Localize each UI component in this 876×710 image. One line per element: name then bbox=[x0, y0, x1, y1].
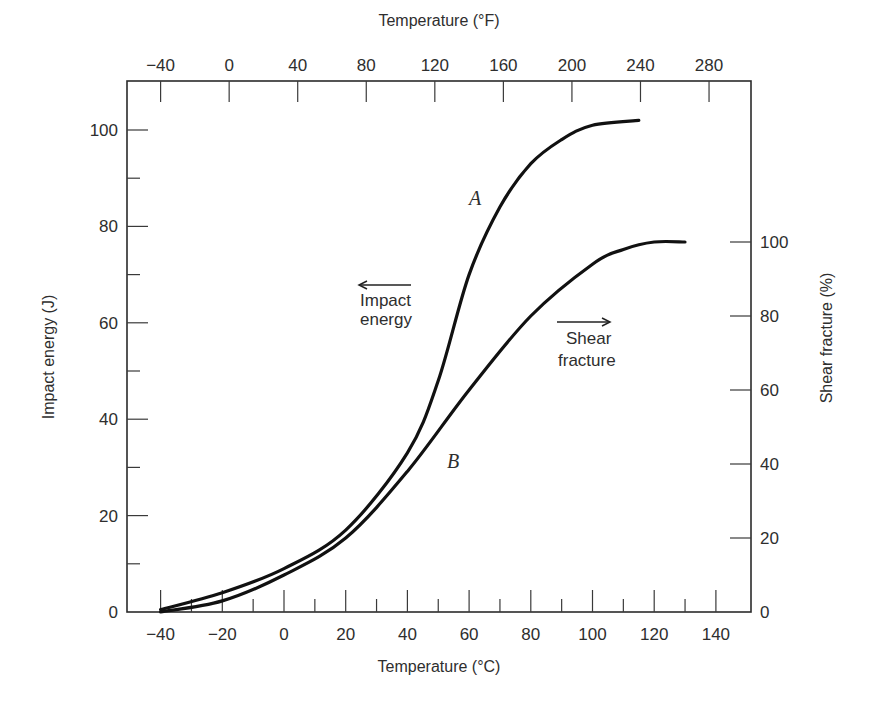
bottom-tick-label: 0 bbox=[279, 625, 288, 644]
impact-label-line2: energy bbox=[360, 310, 412, 329]
left-tick-label: 0 bbox=[109, 603, 118, 622]
impact-energy-annotation: Impact energy bbox=[359, 281, 412, 329]
bottom-tick-label: 20 bbox=[336, 625, 355, 644]
top-tick-label: −40 bbox=[146, 56, 175, 75]
top-tick-label: 0 bbox=[224, 56, 233, 75]
top-tick-label: 160 bbox=[489, 56, 517, 75]
bottom-tick-label: 100 bbox=[578, 625, 606, 644]
right-tick-label: 80 bbox=[760, 307, 779, 326]
top-tick-label: 80 bbox=[357, 56, 376, 75]
left-tick-label: 40 bbox=[99, 410, 118, 429]
right-tick-label: 100 bbox=[760, 233, 788, 252]
bottom-tick-label: −40 bbox=[146, 625, 175, 644]
top-tick-label: 280 bbox=[695, 56, 723, 75]
impact-label-line1: Impact bbox=[360, 291, 411, 310]
left-tick-label: 20 bbox=[99, 507, 118, 526]
top-tick-label: 200 bbox=[558, 56, 586, 75]
plot-border bbox=[127, 81, 751, 612]
shear-label-line1: Shear bbox=[566, 329, 612, 348]
curve-a-label: A bbox=[467, 187, 482, 209]
top-tick-label: 240 bbox=[626, 56, 654, 75]
left-axis-title: Impact energy (J) bbox=[40, 295, 57, 419]
top-axis-title: Temperature (°F) bbox=[378, 12, 499, 29]
right-tick-label: 0 bbox=[760, 603, 769, 622]
bottom-tick-label: 40 bbox=[398, 625, 417, 644]
bottom-tick-label: 120 bbox=[640, 625, 668, 644]
bottom-tick-label: 140 bbox=[702, 625, 730, 644]
right-tick-label: 20 bbox=[760, 529, 779, 548]
right-tick-label: 40 bbox=[760, 455, 779, 474]
plot-frame bbox=[127, 81, 751, 612]
bottom-axis-title: Temperature (°C) bbox=[378, 658, 501, 675]
bottom-tick-label: −20 bbox=[208, 625, 237, 644]
top-tick-label: 120 bbox=[421, 56, 449, 75]
chart: −40−20020406080100120140−400408012016020… bbox=[0, 0, 876, 710]
axis-ticks: −40−20020406080100120140−400408012016020… bbox=[90, 56, 789, 644]
left-tick-label: 60 bbox=[99, 314, 118, 333]
left-tick-label: 80 bbox=[99, 217, 118, 236]
right-axis-title: Shear fracture (%) bbox=[818, 273, 835, 404]
curve-b-label: B bbox=[447, 450, 459, 472]
shear-fracture-annotation: Shear fracture bbox=[557, 318, 616, 370]
shear-label-line2: fracture bbox=[558, 351, 616, 370]
left-tick-label: 100 bbox=[90, 121, 118, 140]
top-tick-label: 40 bbox=[288, 56, 307, 75]
bottom-tick-label: 60 bbox=[460, 625, 479, 644]
right-tick-label: 60 bbox=[760, 381, 779, 400]
bottom-tick-label: 80 bbox=[521, 625, 540, 644]
